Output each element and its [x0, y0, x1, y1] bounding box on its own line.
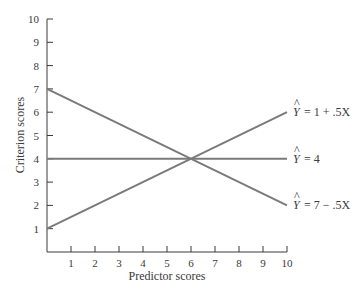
y-tick-label: 9	[34, 36, 40, 48]
svg-text:^: ^	[294, 189, 300, 203]
y-tick-label: 6	[34, 106, 40, 118]
y-tick-label: 3	[34, 176, 40, 188]
equation-label: Y^= 1 + .5X	[293, 96, 351, 119]
regression-lines	[47, 89, 287, 229]
svg-text:= 1 + .5X: = 1 + .5X	[304, 105, 351, 119]
equation-label: Y^= 7 − .5X	[293, 189, 351, 212]
y-tick-label: 4	[34, 153, 40, 165]
y-tick-label: 7	[34, 83, 40, 95]
x-tick-label: 3	[116, 257, 122, 269]
x-tick-label: 8	[236, 257, 242, 269]
y-tick-label: 10	[28, 13, 40, 25]
line-y-7-minus-half-x	[47, 89, 287, 205]
x-tick-label: 7	[212, 257, 218, 269]
y-axis-title: Criterion scores	[13, 97, 27, 174]
x-tick-label: 9	[260, 257, 266, 269]
axes: 1234567891012345678910	[28, 13, 293, 269]
x-tick-label: 10	[282, 257, 294, 269]
svg-text:^: ^	[294, 96, 300, 110]
svg-text:= 4: = 4	[304, 152, 320, 166]
x-tick-label: 1	[68, 257, 74, 269]
line-y-1-plus-half-x	[47, 112, 287, 229]
svg-text:= 7 − .5X: = 7 − .5X	[304, 198, 351, 212]
y-tick-label: 5	[34, 130, 40, 142]
y-tick-label: 2	[34, 199, 40, 211]
x-tick-label: 4	[140, 257, 146, 269]
equation-label: Y^= 4	[293, 143, 320, 166]
x-tick-label: 5	[164, 257, 170, 269]
chart: 1234567891012345678910 Y^= 1 + .5XY^= 4Y…	[0, 0, 364, 296]
svg-text:^: ^	[294, 143, 300, 157]
y-tick-label: 8	[34, 60, 40, 72]
equation-labels: Y^= 1 + .5XY^= 4Y^= 7 − .5X	[293, 96, 351, 212]
x-tick-label: 2	[92, 257, 98, 269]
y-tick-label: 1	[34, 223, 40, 235]
x-axis-title: Predictor scores	[129, 269, 206, 283]
x-tick-label: 6	[188, 257, 194, 269]
